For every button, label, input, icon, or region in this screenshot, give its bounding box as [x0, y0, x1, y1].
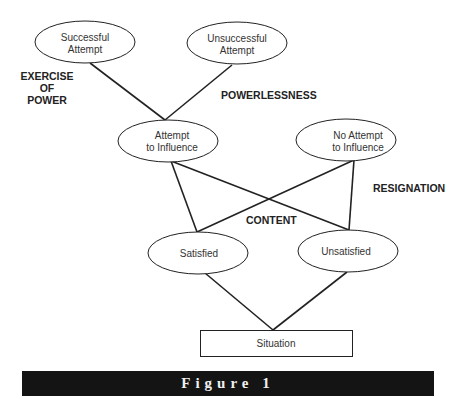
node-label: to Influence — [146, 142, 198, 153]
node-label: to Influence — [332, 142, 384, 153]
svg-text:POWER: POWER — [27, 94, 67, 106]
figure-caption: Figure 1 — [181, 375, 274, 392]
node-label: No Attempt — [333, 130, 383, 141]
svg-text:EXERCISE: EXERCISE — [20, 70, 73, 82]
svg-text:OF: OF — [40, 82, 55, 94]
node-no-attempt-to-influence: No Attempt to Influence — [296, 119, 396, 161]
node-label: Attempt — [155, 130, 190, 141]
edge-noattempt-to-unsatisfied — [349, 160, 354, 230]
label-content: CONTENT — [246, 214, 297, 226]
edge-satisfied-to-situation — [205, 273, 273, 330]
power-diagram: Successful Attempt Unsuccessful Attempt … — [0, 0, 462, 400]
node-satisfied: Satisfied — [148, 232, 248, 274]
node-situation: Situation — [201, 331, 353, 357]
edge-unsatisfied-to-situation — [273, 272, 347, 330]
node-label: Situation — [257, 338, 296, 349]
node-attempt-to-influence: Attempt to Influence — [118, 120, 218, 162]
label-resignation: RESIGNATION — [373, 182, 445, 194]
node-label: Unsuccessful — [207, 33, 266, 44]
node-unsuccessful-attempt: Unsuccessful Attempt — [187, 22, 287, 64]
edge-successful-to-attempt — [90, 63, 165, 120]
node-label: Attempt — [220, 45, 255, 56]
node-label: Satisfied — [180, 248, 218, 259]
label-exercise-of-power: EXERCISE OF POWER — [20, 70, 73, 106]
node-label: Unsatisfied — [321, 246, 370, 257]
node-label: Successful — [61, 32, 109, 43]
node-label: Attempt — [68, 44, 103, 55]
label-powerlessness: POWERLESSNESS — [221, 89, 317, 101]
edge-attempt-to-satisfied — [171, 161, 197, 232]
node-unsatisfied: Unsatisfied — [298, 230, 398, 272]
node-successful-attempt: Successful Attempt — [35, 21, 135, 63]
connector-lines — [90, 63, 354, 330]
figure-caption-bar: Figure 1 — [22, 371, 434, 396]
